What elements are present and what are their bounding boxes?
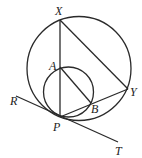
segment-ab <box>60 67 91 103</box>
label-p: P <box>52 120 61 134</box>
label-t: T <box>115 144 123 158</box>
large-circle <box>27 17 131 121</box>
label-b: B <box>91 102 99 116</box>
label-a: A <box>48 59 57 73</box>
tangent-line-rt <box>16 96 118 142</box>
label-y: Y <box>130 85 138 99</box>
small-circle <box>44 67 94 117</box>
label-r: R <box>9 94 18 108</box>
label-x: X <box>54 4 63 18</box>
geometry-diagram: X Y A B P R T <box>0 0 142 158</box>
